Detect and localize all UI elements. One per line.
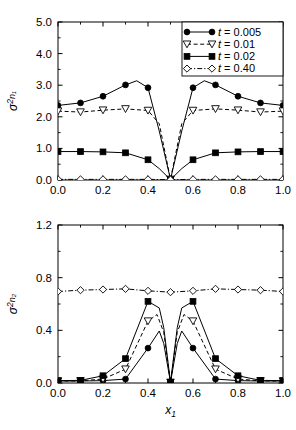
x-tick-label: 0.2 <box>95 184 111 196</box>
y-tick-label: 4.0 <box>36 48 52 60</box>
data-series <box>55 298 286 385</box>
x-tick-label: 0.8 <box>230 184 246 196</box>
svg-text:σ2n₁: σ2n₁ <box>5 91 21 111</box>
plot-top: 0.00.20.40.60.81.00.01.02.03.04.05.0σ2n₁… <box>0 0 296 215</box>
y-tick-label: 0.4 <box>36 324 53 336</box>
x-tick-label: 0.4 <box>140 387 157 399</box>
x-tick-label: 1.0 <box>275 184 291 196</box>
data-series <box>54 285 286 295</box>
svg-text:σ2n₂: σ2n₂ <box>5 293 21 314</box>
data-series <box>54 106 287 183</box>
x-tick-label: 0.6 <box>185 184 201 196</box>
legend-label: t = 0.02 <box>218 50 255 62</box>
legend-label: t = 0.005 <box>218 26 261 38</box>
plot-frame <box>58 225 283 383</box>
figure-container: 0.00.20.40.60.81.00.01.02.03.04.05.0σ2n₁… <box>0 0 296 430</box>
y-axis-title: σ2n₂ <box>5 293 21 314</box>
y-tick-label: 0.0 <box>36 174 52 186</box>
y-tick-label: 2.0 <box>36 111 52 123</box>
x-tick-label: 1.0 <box>275 387 291 399</box>
y-tick-label: 3.0 <box>36 79 52 91</box>
y-tick-label: 5.0 <box>36 16 52 28</box>
x-tick-label: 0.6 <box>185 387 201 399</box>
x-tick-label: 0.0 <box>50 184 66 196</box>
legend-label: t = 0.01 <box>218 38 255 50</box>
data-series <box>55 81 286 182</box>
chart-panel-top: 0.00.20.40.60.81.00.01.02.03.04.05.0σ2n₁… <box>0 0 296 215</box>
y-tick-label: 1.0 <box>36 142 52 154</box>
chart-panel-bottom: 0.00.20.40.60.81.00.00.40.81.2σ2n₂x1 <box>0 215 296 430</box>
data-series <box>55 331 286 385</box>
x-tick-label: 0.8 <box>230 387 246 399</box>
legend-label: t = 0.40 <box>218 62 255 74</box>
legend: t = 0.005t = 0.01t = 0.02t = 0.40 <box>182 22 283 76</box>
data-series <box>54 315 287 386</box>
y-tick-label: 1.2 <box>36 219 52 231</box>
y-axis-title: σ2n₁ <box>5 91 21 111</box>
axis-ticks <box>58 225 283 383</box>
y-tick-label: 0.0 <box>36 377 52 389</box>
x-tick-label: 0.0 <box>50 387 66 399</box>
plot-bottom: 0.00.20.40.60.81.00.00.40.81.2σ2n₂x1 <box>0 215 296 430</box>
y-tick-label: 0.8 <box>36 272 52 284</box>
x-axis-title: x1 <box>164 403 176 419</box>
x-tick-label: 0.4 <box>140 184 157 196</box>
x-tick-label: 0.2 <box>95 387 111 399</box>
